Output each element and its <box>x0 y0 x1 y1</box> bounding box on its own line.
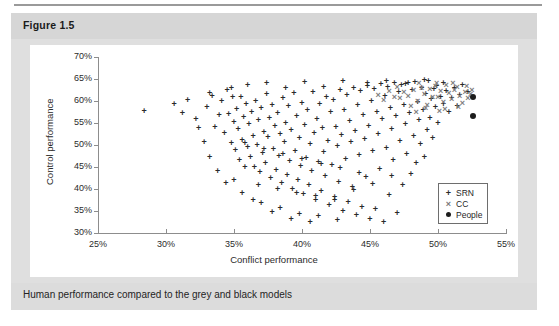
data-point-cc: × <box>376 90 381 99</box>
data-point-srn: + <box>222 129 227 138</box>
data-point-srn: + <box>235 125 240 134</box>
data-point-srn: + <box>261 144 266 153</box>
legend-circle-icon <box>443 212 454 217</box>
data-point-srn: + <box>346 198 351 207</box>
data-point-srn: + <box>376 129 381 138</box>
x-axis-tick <box>438 229 439 234</box>
data-point-srn: + <box>216 111 221 120</box>
data-point-srn: + <box>438 92 443 101</box>
data-point-srn: + <box>335 215 340 224</box>
data-point-cc: × <box>456 103 461 112</box>
data-point-cc: × <box>434 78 439 87</box>
data-point-srn: + <box>384 143 389 152</box>
data-point-srn: + <box>377 164 382 173</box>
top-divider-rule <box>14 4 542 6</box>
x-axis-tick-label: 55% <box>486 239 526 249</box>
legend-label: People <box>456 210 482 220</box>
legend-x-icon: × <box>443 199 454 209</box>
data-point-srn: + <box>374 107 379 116</box>
data-point-srn: + <box>336 177 341 186</box>
data-point-srn: + <box>263 158 268 167</box>
data-point-srn: + <box>204 103 209 112</box>
data-point-cc: × <box>468 89 473 98</box>
data-point-srn: + <box>283 83 288 92</box>
figure-caption-bar: Human performance compared to the grey a… <box>11 283 537 310</box>
data-point-srn: + <box>260 148 265 157</box>
figure-header-bar: Figure 1.5 <box>11 13 537 39</box>
chart-panel: 30%35%40%45%50%55%60%65%70%25%30%35%40%4… <box>30 45 518 277</box>
data-point-srn: + <box>244 100 249 109</box>
data-point-srn: + <box>308 218 313 227</box>
x-axis-tick-label: 35% <box>214 239 254 249</box>
data-point-cc: × <box>401 88 406 97</box>
data-point-srn: + <box>231 117 236 126</box>
data-point-srn: + <box>361 111 366 120</box>
data-point-srn: + <box>276 151 281 160</box>
data-point-srn: + <box>446 108 451 117</box>
data-point-cc: × <box>438 87 443 96</box>
data-point-srn: + <box>256 115 261 124</box>
data-point-cc: × <box>449 95 454 104</box>
data-point-srn: + <box>356 169 361 178</box>
data-point-srn: + <box>329 160 334 169</box>
data-point-srn: + <box>269 101 274 110</box>
data-point-srn: + <box>370 179 375 188</box>
data-point-srn: + <box>257 168 262 177</box>
data-point-srn: + <box>352 126 357 135</box>
data-point-srn: + <box>308 140 313 149</box>
data-point-srn: + <box>278 204 283 213</box>
data-point-srn: + <box>313 192 318 201</box>
legend-label: SRN <box>456 188 474 198</box>
data-point-srn: + <box>320 124 325 133</box>
data-point-srn: + <box>229 83 234 92</box>
data-point-srn: + <box>373 205 378 214</box>
data-point-cc: × <box>386 87 391 96</box>
data-point-srn: + <box>403 119 408 128</box>
data-point-srn: + <box>399 81 404 90</box>
data-point-srn: + <box>234 104 239 113</box>
data-point-srn: + <box>284 170 289 179</box>
data-point-srn: + <box>287 156 292 165</box>
data-point-srn: + <box>306 181 311 190</box>
y-axis-tick-label: 65% <box>48 73 92 83</box>
data-point-srn: + <box>302 120 307 129</box>
data-point-srn: + <box>207 153 212 162</box>
data-point-srn: + <box>351 185 356 194</box>
data-point-srn: + <box>230 93 235 102</box>
data-point-cc: × <box>424 100 429 109</box>
data-point-srn: + <box>278 130 283 139</box>
data-point-srn: + <box>431 84 436 93</box>
data-point-srn: + <box>354 211 359 220</box>
data-point-srn: + <box>248 152 253 161</box>
data-point-srn: + <box>294 111 299 120</box>
data-point-cc: × <box>416 79 421 88</box>
y-axis-tick <box>94 57 99 58</box>
data-point-srn: + <box>268 173 273 182</box>
data-point-srn: + <box>452 83 457 92</box>
data-point-srn: + <box>259 199 264 208</box>
data-point-srn: + <box>279 179 284 188</box>
data-point-srn: + <box>267 113 272 122</box>
data-point-srn: + <box>389 125 394 134</box>
data-point-srn: + <box>359 202 364 211</box>
data-point-srn: + <box>245 142 250 151</box>
data-point-cc: × <box>423 104 428 113</box>
y-axis-tick <box>94 167 99 168</box>
data-point-srn: + <box>210 91 215 100</box>
data-point-srn: + <box>418 140 423 149</box>
data-point-people <box>470 113 476 119</box>
data-point-srn: + <box>297 209 302 218</box>
data-point-srn: + <box>422 75 427 84</box>
data-point-srn: + <box>424 126 429 135</box>
y-axis-tick <box>94 79 99 80</box>
data-point-people <box>470 94 476 100</box>
data-point-srn: + <box>335 141 340 150</box>
data-point-srn: + <box>142 106 147 115</box>
figure-number-label: Figure 1.5 <box>23 19 75 31</box>
data-point-srn: + <box>259 104 264 113</box>
y-axis-title: Control performance <box>44 98 55 185</box>
y-axis-tick-label: 70% <box>48 51 92 61</box>
data-point-srn: + <box>430 133 435 142</box>
data-point-srn: + <box>355 100 360 109</box>
data-point-srn: + <box>294 188 299 197</box>
